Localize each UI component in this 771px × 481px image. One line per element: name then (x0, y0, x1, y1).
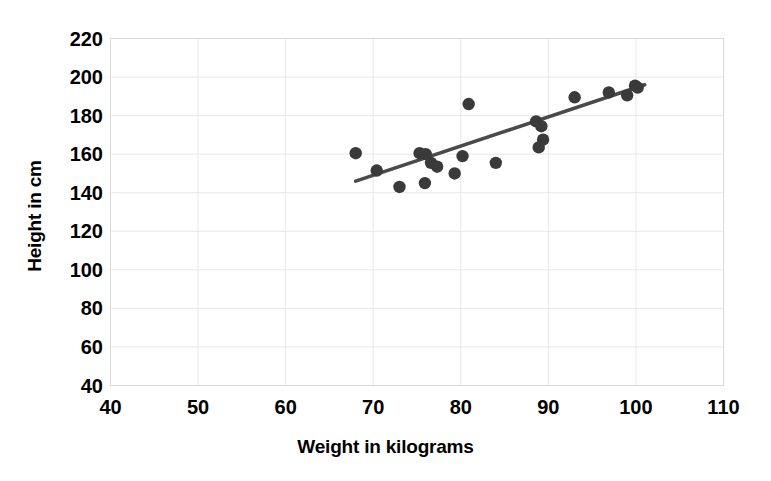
x-tick-label: 70 (362, 396, 384, 419)
data-point (419, 177, 431, 189)
data-point (448, 167, 460, 179)
y-tick-label: 60 (0, 335, 103, 358)
data-point (533, 141, 545, 153)
y-tick-label: 140 (0, 181, 103, 204)
y-tick-label: 120 (0, 220, 103, 243)
scatter-chart: 406080100120140160180200220 405060708090… (0, 0, 771, 481)
y-tick-label: 220 (0, 27, 103, 50)
y-tick-label: 100 (0, 258, 103, 281)
data-point (603, 86, 615, 98)
x-tick-label: 110 (707, 396, 739, 419)
y-tick-label: 40 (0, 374, 103, 397)
x-tick-label: 50 (187, 396, 209, 419)
x-tick-label: 80 (450, 396, 472, 419)
x-tick-label: 60 (275, 396, 297, 419)
x-tick-label: 90 (537, 396, 559, 419)
y-axis-title: Height in cm (24, 76, 46, 356)
data-point (456, 150, 468, 162)
y-tick-label: 180 (0, 104, 103, 127)
data-points (350, 80, 644, 194)
data-point (621, 89, 633, 101)
data-point (631, 81, 643, 93)
data-point (431, 160, 443, 172)
y-tick-label: 200 (0, 66, 103, 89)
x-axis-title: Weight in kilograms (0, 436, 771, 458)
x-tick-label: 100 (619, 396, 652, 419)
data-point (568, 91, 580, 103)
y-tick-label: 160 (0, 143, 103, 166)
data-point (350, 147, 362, 159)
data-point (535, 120, 547, 132)
y-tick-label: 80 (0, 297, 103, 320)
data-point (371, 164, 383, 176)
x-axis-tick-labels: 405060708090100110 (0, 396, 771, 436)
data-point (490, 157, 502, 169)
data-point (393, 181, 405, 193)
x-tick-label: 40 (99, 396, 121, 419)
data-point (462, 98, 474, 110)
